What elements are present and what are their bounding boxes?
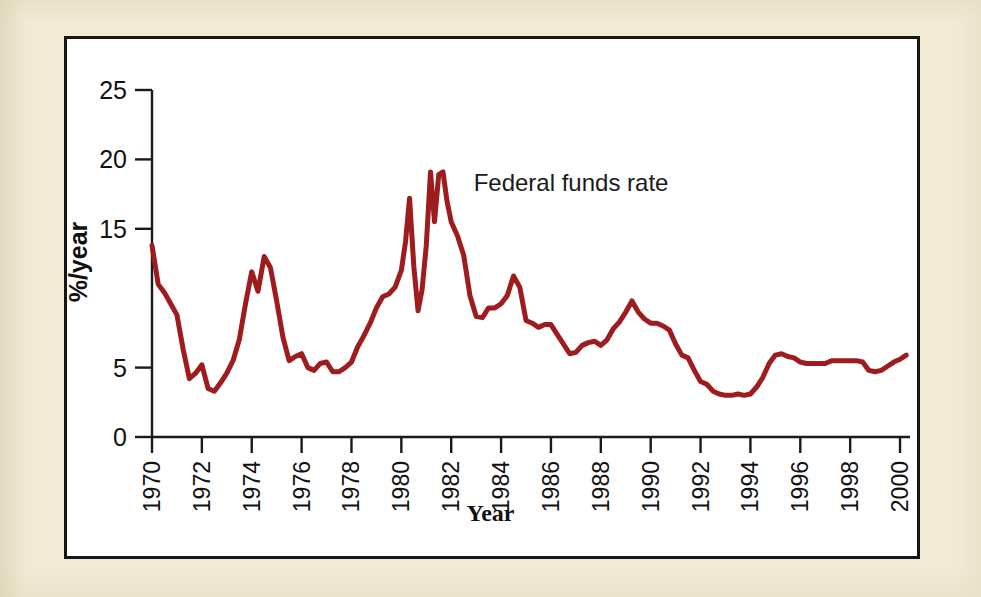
figure-container: %/year 05152025 197019721974197619781980… bbox=[0, 0, 981, 597]
chart-plot-area bbox=[64, 36, 920, 559]
federal-funds-rate-line bbox=[152, 172, 906, 395]
